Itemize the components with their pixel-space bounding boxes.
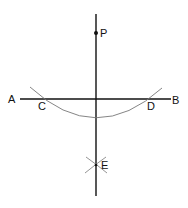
label-a: A bbox=[8, 93, 16, 105]
label-b: B bbox=[172, 94, 179, 106]
label-p: P bbox=[100, 27, 107, 39]
label-c: C bbox=[38, 100, 46, 112]
label-d: D bbox=[147, 100, 155, 112]
point-e-dot bbox=[95, 164, 98, 167]
geometry-diagram: P A B C D E bbox=[0, 0, 188, 208]
point-p-dot bbox=[94, 31, 98, 35]
label-e: E bbox=[101, 159, 108, 171]
